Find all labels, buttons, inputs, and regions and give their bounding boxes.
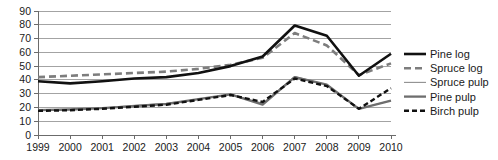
y-tick-labels-group: 0102030405060708090 [19,5,31,141]
x-tick-label: 2002 [123,141,147,153]
x-tick-label: 2010 [379,141,403,153]
x-axis-group [38,135,396,139]
line-chart: 0102030405060708090 19992000200120022003… [0,0,498,160]
y-tick-label: 70 [19,32,31,44]
x-tick-label: 2006 [251,141,275,153]
chart-canvas: 0102030405060708090 19992000200120022003… [0,0,498,160]
legend-label-pine-log: Pine log [430,48,470,60]
y-axis-group [34,11,38,136]
y-tick-label: 80 [19,18,31,30]
chart-plot-area: 0102030405060708090 19992000200120022003… [0,0,498,160]
x-tick-label: 2005 [219,141,243,153]
y-tick-label: 0 [25,129,31,141]
series-line-pine-log [38,25,391,83]
x-tick-label: 2009 [347,141,371,153]
x-tick-label: 2000 [58,141,82,153]
chart-legend: Pine logSpruce logSpruce pulpPine pulpBi… [404,48,489,117]
x-tick-label: 1999 [26,141,50,153]
legend-label-spruce-log: Spruce log [430,62,483,74]
y-tick-label: 10 [19,115,31,127]
x-tick-label: 2007 [283,141,307,153]
y-tick-label: 40 [19,73,31,85]
legend-label-spruce-pulp: Spruce pulp [430,76,489,88]
gridlines-group [38,11,391,135]
x-tick-label: 2003 [155,141,179,153]
legend-label-birch-pulp: Birch pulp [430,105,479,117]
legend-label-pine-pulp: Pine pulp [430,91,476,103]
x-tick-label: 2001 [91,141,115,153]
x-tick-label: 2008 [315,141,339,153]
x-tick-labels-group: 1999200020012002200320042005200620072008… [26,141,403,153]
y-tick-label: 20 [19,101,31,113]
y-tick-label: 90 [19,5,31,17]
y-tick-label: 30 [19,87,31,99]
series-line-birch-pulp [38,79,391,111]
x-tick-label: 2004 [187,141,211,153]
y-tick-label: 50 [19,60,31,72]
y-tick-label: 60 [19,46,31,58]
